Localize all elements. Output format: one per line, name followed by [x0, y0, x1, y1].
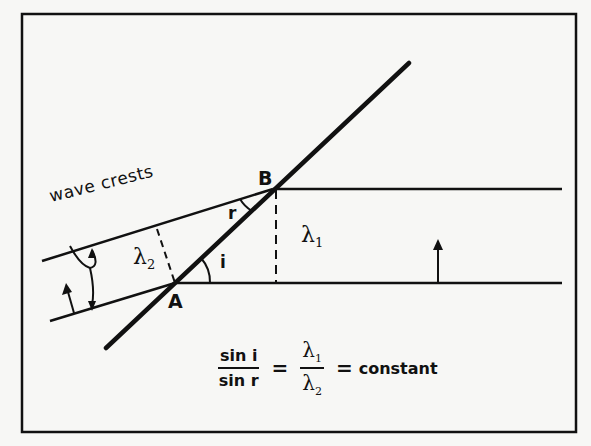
angle-i-arc — [201, 258, 210, 283]
point-a-label: A — [168, 290, 183, 312]
lambda1-num: λ1 — [300, 338, 324, 369]
propagation-arrow-left-shaft — [68, 292, 74, 313]
equals-sign-1: = — [271, 356, 288, 380]
boundary-line — [106, 63, 409, 348]
angle-r-arc — [240, 199, 252, 211]
lambda1-label: λ1 — [301, 222, 323, 250]
propagation-arrow-left-head — [62, 283, 72, 295]
angle-i-label: i — [220, 252, 226, 272]
point-b-label: B — [258, 167, 272, 189]
wavelength-ratio: λ1 λ2 — [300, 338, 324, 398]
lambda2-label: λ2 — [133, 244, 155, 272]
sin-i: sin i — [218, 346, 259, 369]
snell-equation: sin i sin r = λ1 λ2 = constant — [212, 338, 438, 398]
equals-sign-2: = — [336, 356, 353, 380]
lambda2-den: λ2 — [302, 369, 322, 398]
curved-arrow-head-up — [88, 248, 96, 258]
sin-r: sin r — [219, 369, 259, 390]
constant-text: constant — [359, 359, 438, 378]
lambda2-dashed-line — [157, 229, 175, 283]
sine-ratio: sin i sin r — [218, 346, 259, 390]
angle-r-label: r — [228, 203, 236, 223]
propagation-arrow-right-head — [433, 239, 443, 250]
